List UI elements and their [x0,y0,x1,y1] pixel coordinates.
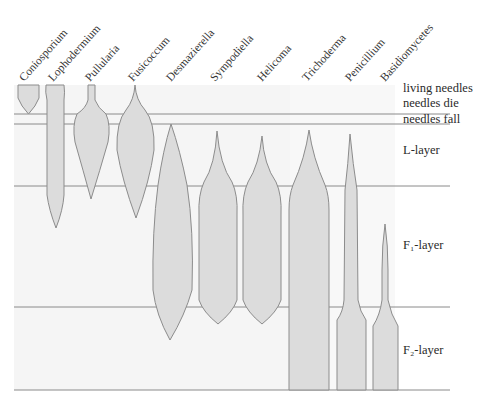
genus-label-pullularia: Pullularia [83,42,122,83]
genus-label-coniosporium: Coniosporium [17,26,71,84]
layer-label-l: L-layer [403,143,441,157]
genus-label-trichoderma: Trichoderma [300,31,348,83]
genus-label-basidiomycetes: Basidiomycetes [378,21,437,84]
genus-labels: Coniosporium Lophodermium Pullularia Fus… [17,21,437,84]
stage-label-needles-fall: needles fall [403,112,461,126]
genus-label-sympodiella: Sympodiella [208,32,257,84]
layer-label-f1: F₁-layer [403,238,444,252]
layer-label-f2: F₂-layer [403,343,444,357]
genus-label-helicoma: Helicoma [255,42,294,83]
stage-label-living-needles: living needles [403,81,473,95]
stage-label-needles-die: needles die [403,96,459,110]
fungal-succession-diagram: Coniosporium Lophodermium Pullularia Fus… [0,0,490,398]
